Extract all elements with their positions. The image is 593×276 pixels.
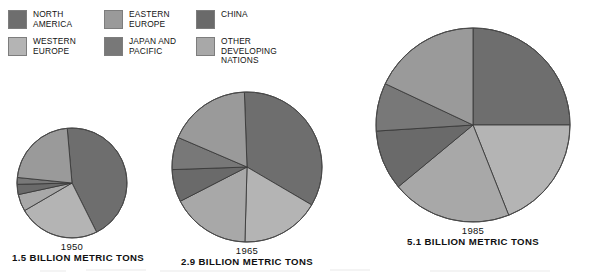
legend-swatch-western-europe xyxy=(8,37,27,56)
scan-artifact xyxy=(430,270,550,272)
pie-total-1985: 5.1 BILLION METRIC TONS xyxy=(368,236,578,247)
legend-item-other-developing: OTHER DEVELOPING NATIONS xyxy=(196,36,298,63)
pie-chart-1965: 1965 2.9 BILLION METRIC TONS xyxy=(162,90,332,267)
pie-caption-1985: 1985 5.1 BILLION METRIC TONS xyxy=(368,225,578,247)
legend-item-china: CHINA xyxy=(196,9,298,36)
pie-year-1965: 1965 xyxy=(162,245,332,256)
pie-chart-1950: 1950 1.5 BILLION METRIC TONS xyxy=(12,126,132,263)
scan-artifact xyxy=(160,270,300,272)
legend-swatch-japan-pacific xyxy=(104,37,123,56)
pie-slice xyxy=(17,128,72,183)
pie-svg-1985 xyxy=(374,26,572,224)
pie-chart-1985: 1985 5.1 BILLION METRIC TONS xyxy=(368,26,578,247)
pie-svg-1950 xyxy=(15,126,129,240)
legend-label-japan-pacific: JAPAN AND PACIFIC xyxy=(129,36,176,56)
legend-swatch-other-developing xyxy=(196,37,215,56)
legend-item-north-america: NORTH AMERICA xyxy=(8,9,104,36)
scan-artifact xyxy=(86,269,146,271)
scan-artifact xyxy=(330,269,370,271)
legend-item-eastern-europe: EASTERN EUROPE xyxy=(104,9,196,36)
legend-label-north-america: NORTH AMERICA xyxy=(33,9,72,29)
pie-total-1950: 1.5 BILLION METRIC TONS xyxy=(12,252,132,263)
pie-year-1985: 1985 xyxy=(368,225,578,236)
legend-swatch-north-america xyxy=(8,10,27,29)
pie-svg-1965 xyxy=(170,90,324,244)
pie-slice xyxy=(473,28,570,125)
legend-label-china: CHINA xyxy=(221,9,248,20)
legend: NORTH AMERICA EASTERN EUROPE CHINA WESTE… xyxy=(8,9,298,63)
pie-year-1950: 1950 xyxy=(12,241,132,252)
legend-swatch-china xyxy=(196,10,215,29)
legend-item-western-europe: WESTERN EUROPE xyxy=(8,36,104,63)
legend-item-japan-pacific: JAPAN AND PACIFIC xyxy=(104,36,196,63)
pie-caption-1950: 1950 1.5 BILLION METRIC TONS xyxy=(12,241,132,263)
legend-label-western-europe: WESTERN EUROPE xyxy=(33,36,76,56)
legend-label-other-developing: OTHER DEVELOPING NATIONS xyxy=(221,36,298,66)
scan-artifact xyxy=(40,270,66,272)
legend-label-eastern-europe: EASTERN EUROPE xyxy=(129,9,170,29)
legend-swatch-eastern-europe xyxy=(104,10,123,29)
scan-artifacts xyxy=(0,264,593,276)
